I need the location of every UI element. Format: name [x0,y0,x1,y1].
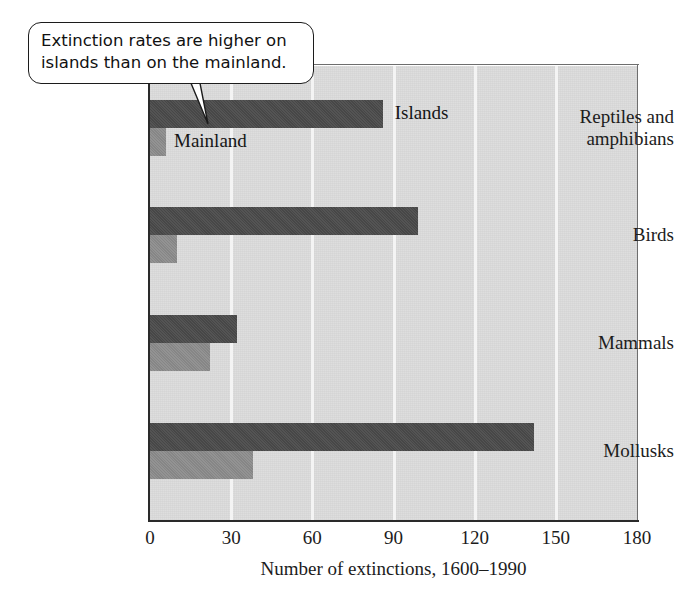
series-label-mainland: Mainland [174,130,247,152]
x-tick-label-90: 90 [384,527,403,549]
callout-text: Extinction rates are higher on islands t… [41,31,287,72]
gridline-120 [474,66,477,520]
bar-birds-mainland[interactable] [150,235,177,263]
callout-box: Extinction rates are higher on islands t… [28,22,314,84]
gridline-90 [393,66,396,520]
gridline-60 [311,66,314,520]
x-tick-label-120: 120 [460,527,489,549]
bar-reptiles-islands[interactable] [150,100,383,128]
bar-mammals-islands[interactable] [150,315,237,343]
x-axis-title: Number of extinctions, 1600–1990 [150,558,637,580]
callout-pointer-icon [186,76,246,132]
x-tick-label-0: 0 [145,527,155,549]
x-tick-label-150: 150 [542,527,571,549]
gridline-150 [555,66,558,520]
x-tick-label-30: 30 [222,527,241,549]
bar-mollusks-islands[interactable] [150,423,534,451]
bar-birds-islands[interactable] [150,207,418,235]
x-tick-label-60: 60 [303,527,322,549]
bar-mammals-mainland[interactable] [150,343,210,371]
bar-reptiles-mainland[interactable] [150,128,166,156]
series-label-islands: Islands [395,102,449,124]
x-tick-label-180: 180 [623,527,652,549]
bar-mollusks-mainland[interactable] [150,451,253,479]
